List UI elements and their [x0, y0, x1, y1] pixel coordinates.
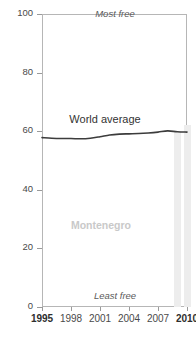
x-tick-label: 1998: [60, 313, 82, 324]
y-tick-label: 40: [22, 183, 33, 194]
x-tick-label: 2007: [147, 313, 169, 324]
y-tick-label: 60: [22, 124, 33, 135]
x-tick-mark: [42, 307, 43, 311]
y-tick-label: 100: [17, 7, 33, 18]
y-tick-label: 20: [22, 241, 33, 252]
most-free-annotation: Most free: [95, 8, 135, 19]
x-tick-label: 2010: [176, 313, 196, 324]
x-tick-label: 2004: [118, 313, 140, 324]
least-free-annotation: Least free: [94, 290, 136, 301]
y-tick-label: 80: [22, 66, 33, 77]
y-axis: 020406080100: [0, 0, 42, 347]
x-tick-mark: [187, 307, 188, 311]
y-tick-mark: [37, 190, 42, 191]
y-tick-mark: [37, 131, 42, 132]
x-tick-mark: [100, 307, 101, 311]
y-tick-mark: [37, 14, 42, 15]
x-tick-label: 1995: [31, 313, 53, 324]
x-tick-mark: [158, 307, 159, 311]
x-tick-label: 2001: [89, 313, 111, 324]
x-tick-mark: [129, 307, 130, 311]
x-tick-mark: [71, 307, 72, 311]
montenegro-label: Montenegro: [71, 219, 131, 231]
y-tick-mark: [37, 73, 42, 74]
world-average-label: World average: [69, 113, 140, 125]
x-axis: 199519982001200420072010: [0, 307, 196, 347]
y-tick-mark: [37, 248, 42, 249]
economic-freedom-chart: p Most free Least free World average Mon…: [0, 0, 196, 347]
